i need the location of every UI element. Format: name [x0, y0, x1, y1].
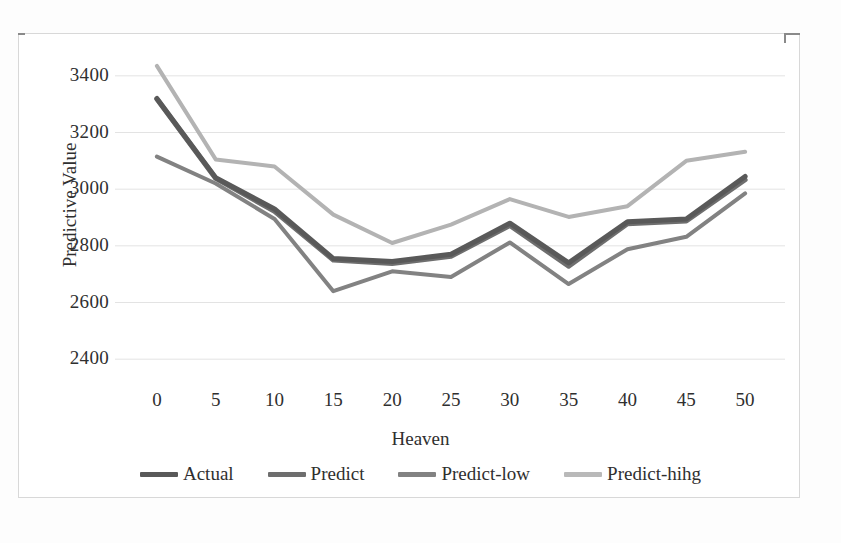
frame-corner-tick-right-vertical [784, 33, 786, 43]
legend-swatch-icon [564, 472, 602, 477]
legend-swatch-icon [268, 472, 306, 477]
y-tick-label: 3400 [25, 64, 109, 86]
series-line-actual [157, 99, 745, 263]
x-axis-title: Heaven [0, 428, 841, 450]
legend-label: Predict [311, 463, 365, 485]
legend-item[interactable]: Predict-hihg [564, 463, 701, 485]
y-axis-title: Predictive Value [59, 105, 81, 305]
chart-legend: ActualPredictPredict-lowPredict-hihg [0, 463, 841, 485]
x-tick-label: 0 [127, 389, 187, 411]
x-tick-label: 45 [656, 389, 716, 411]
legend-item[interactable]: Actual [140, 463, 234, 485]
frame-corner-tick-left [18, 33, 25, 35]
legend-item[interactable]: Predict [268, 463, 365, 485]
x-tick-label: 40 [597, 389, 657, 411]
x-tick-label: 25 [421, 389, 481, 411]
legend-label: Predict-hihg [607, 463, 701, 485]
x-tick-label: 5 [186, 389, 246, 411]
legend-item[interactable]: Predict-low [398, 463, 530, 485]
x-tick-label: 50 [715, 389, 775, 411]
x-tick-label: 30 [480, 389, 540, 411]
x-tick-label: 35 [539, 389, 599, 411]
frame-corner-tick-right [784, 33, 800, 35]
series-group [157, 66, 745, 291]
x-tick-label: 10 [245, 389, 305, 411]
series-line-predict-hihg [157, 66, 745, 243]
legend-swatch-icon [140, 472, 178, 477]
legend-label: Actual [183, 463, 234, 485]
legend-label: Predict-low [441, 463, 530, 485]
y-tick-label: 2400 [25, 347, 109, 369]
chart-figure: 240026002800300032003400 051015202530354… [0, 0, 841, 543]
x-tick-label: 20 [362, 389, 422, 411]
legend-swatch-icon [398, 472, 436, 477]
x-tick-label: 15 [303, 389, 363, 411]
